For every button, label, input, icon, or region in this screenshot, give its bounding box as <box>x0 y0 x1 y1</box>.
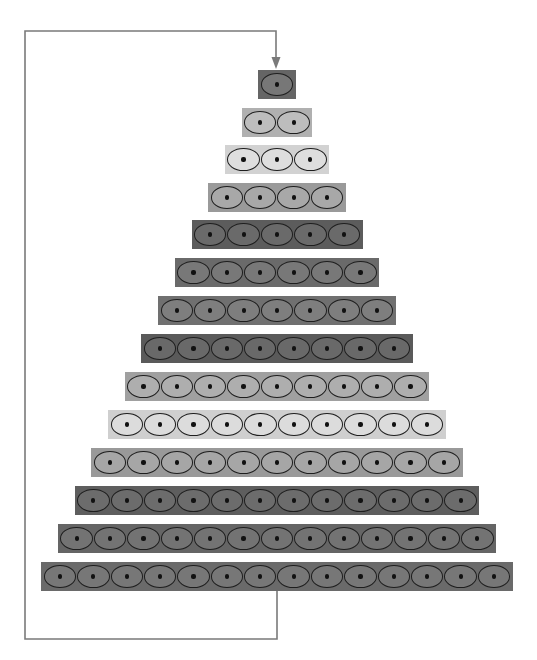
center-dot-icon <box>108 536 112 540</box>
center-dot-icon <box>325 346 329 350</box>
center-dot-icon <box>342 536 346 540</box>
center-dot-icon <box>408 536 412 540</box>
ellipse-icon <box>394 451 426 474</box>
pyramid-cell <box>277 183 310 212</box>
center-dot-icon <box>258 422 262 426</box>
ellipse-icon <box>328 451 360 474</box>
ellipse-icon <box>144 489 176 512</box>
ellipse-icon <box>344 337 376 360</box>
ellipse-icon <box>277 565 309 588</box>
center-dot-icon <box>392 422 396 426</box>
pyramid-cell <box>244 183 277 212</box>
ellipse-icon <box>244 261 276 284</box>
ellipse-icon <box>311 261 343 284</box>
pyramid-row-3 <box>225 145 329 174</box>
ellipse-icon <box>211 489 243 512</box>
ellipse-icon <box>328 375 360 398</box>
ellipse-icon <box>177 413 209 436</box>
pyramid-cell <box>310 562 343 591</box>
pyramid-cell <box>294 372 327 401</box>
pyramid-cell <box>177 562 210 591</box>
pyramid-cell <box>77 486 110 515</box>
pyramid-cell <box>194 220 227 249</box>
ellipse-icon <box>294 299 326 322</box>
pyramid-cell <box>227 145 260 174</box>
pyramid-cell <box>360 372 393 401</box>
pyramid-cell <box>344 486 377 515</box>
pyramid-cell <box>277 108 310 137</box>
pyramid-cell <box>194 372 227 401</box>
pyramid-row-6 <box>175 258 379 287</box>
ellipse-icon <box>277 261 309 284</box>
pyramid-cell <box>260 220 293 249</box>
ellipse-icon <box>394 527 426 550</box>
center-dot-icon <box>342 384 346 388</box>
ellipse-icon <box>444 565 476 588</box>
center-dot-icon <box>58 574 62 578</box>
center-dot-icon <box>392 574 396 578</box>
pyramid-cell <box>227 524 260 553</box>
center-dot-icon <box>325 270 329 274</box>
pyramid-cell <box>294 296 327 325</box>
pyramid-cell <box>411 562 444 591</box>
ellipse-icon <box>361 299 393 322</box>
center-dot-icon <box>275 308 279 312</box>
pyramid-cell <box>377 562 410 591</box>
ellipse-icon <box>344 261 376 284</box>
pyramid-row-1 <box>258 70 295 99</box>
pyramid-cell <box>177 486 210 515</box>
ellipse-icon <box>294 148 326 171</box>
ellipse-icon <box>261 148 293 171</box>
ellipse-icon <box>194 451 226 474</box>
ellipse-icon <box>161 451 193 474</box>
ellipse-icon <box>211 413 243 436</box>
pyramid-cell <box>227 296 260 325</box>
ellipse-icon <box>344 489 376 512</box>
pyramid-row-11 <box>91 448 462 477</box>
ellipse-icon <box>244 413 276 436</box>
pyramid-cell <box>377 486 410 515</box>
pyramid-cell <box>260 448 293 477</box>
ellipse-icon <box>244 186 276 209</box>
pyramid-cell <box>294 448 327 477</box>
ellipse-icon <box>361 527 393 550</box>
pyramid-cell <box>160 448 193 477</box>
pyramid-cell <box>227 372 260 401</box>
center-dot-icon <box>75 536 79 540</box>
pyramid-cell <box>93 524 126 553</box>
ellipse-icon <box>227 451 259 474</box>
ellipse-icon <box>94 451 126 474</box>
ellipse-icon <box>161 299 193 322</box>
center-dot-icon <box>325 498 329 502</box>
pyramid-cell <box>260 524 293 553</box>
pyramid-row-9 <box>125 372 430 401</box>
ellipse-icon <box>328 299 360 322</box>
ellipse-icon <box>111 489 143 512</box>
center-dot-icon <box>275 536 279 540</box>
ellipse-icon <box>311 489 343 512</box>
center-dot-icon <box>425 422 429 426</box>
pyramid-cell <box>360 296 393 325</box>
pyramid-cell <box>143 410 176 439</box>
center-dot-icon <box>208 232 212 236</box>
pyramid-row-7 <box>158 296 396 325</box>
ellipse-icon <box>411 565 443 588</box>
pyramid-cell <box>143 486 176 515</box>
center-dot-icon <box>375 384 379 388</box>
pyramid-row-14 <box>41 562 513 591</box>
pyramid-cell <box>244 258 277 287</box>
pyramid-cell <box>227 220 260 249</box>
pyramid-cell <box>394 448 427 477</box>
pyramid-cell <box>360 524 393 553</box>
pyramid-cell <box>327 448 360 477</box>
center-dot-icon <box>375 308 379 312</box>
ellipse-icon <box>144 565 176 588</box>
ellipse-icon <box>378 413 410 436</box>
center-dot-icon <box>308 157 312 161</box>
center-dot-icon <box>175 536 179 540</box>
ellipse-icon <box>428 451 460 474</box>
pyramid-cell <box>344 562 377 591</box>
pyramid-cell <box>427 448 460 477</box>
center-dot-icon <box>292 422 296 426</box>
center-dot-icon <box>141 460 145 464</box>
